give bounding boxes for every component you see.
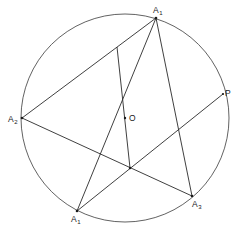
- point-a3: [191, 195, 194, 198]
- point-a2: [21, 117, 24, 120]
- label-o: O: [129, 113, 136, 123]
- label-a1prime: A1: [71, 214, 81, 225]
- point-a1prime: [76, 210, 79, 213]
- label-p: P: [225, 88, 231, 98]
- label-a1: A1: [153, 5, 163, 16]
- label-a2: A2: [8, 114, 18, 125]
- segment-a1prime-p: [77, 94, 223, 211]
- geometry-diagram: A1 A2 A3 A1 P O: [0, 0, 236, 232]
- point-a1: [155, 17, 158, 20]
- point-o: [124, 117, 126, 119]
- point-x: [129, 167, 131, 169]
- label-a3: A3: [192, 199, 202, 210]
- segment-a1-a3: [156, 18, 192, 196]
- segment-a2-a3: [22, 118, 192, 196]
- point-p: [222, 93, 224, 95]
